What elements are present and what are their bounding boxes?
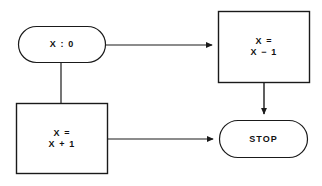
shape-node-set-x-zero: [19, 27, 106, 63]
flowchart-diagram: X : 0 X = X − 1 X = X + 1 STOP: [0, 0, 322, 186]
shape-node-x-equals-x-plus-1: [17, 104, 108, 174]
shape-node-x-equals-x-minus-1: [219, 12, 310, 83]
shape-node-stop: [220, 121, 308, 158]
flowchart-vector-layer: [0, 0, 322, 186]
